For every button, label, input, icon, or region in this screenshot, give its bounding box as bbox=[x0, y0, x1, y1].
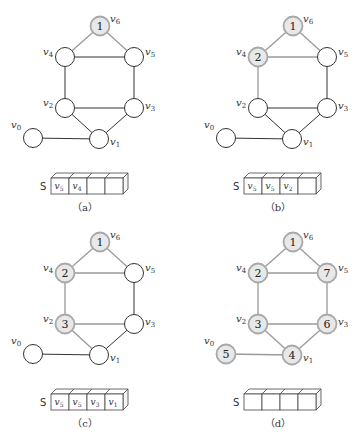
vertex-label-v1: v1 bbox=[303, 352, 313, 365]
node-v6: 1v6 bbox=[91, 229, 121, 252]
visit-order-v1: 4 bbox=[289, 349, 296, 362]
visit-order-v4: 2 bbox=[255, 51, 262, 64]
panel-a: v0v1v2v3v4v51v6Sv5v4（a） bbox=[11, 13, 155, 213]
panel-b: v0v1v2v32v4v51v6Sv5v5v2（b） bbox=[204, 13, 348, 213]
vertex-label-v2: v2 bbox=[43, 313, 53, 326]
node-v0: v0 bbox=[204, 119, 236, 148]
node-v4: 2v4 bbox=[236, 262, 268, 283]
node-circle-v0 bbox=[24, 345, 43, 364]
vertex-label-v1: v1 bbox=[110, 352, 120, 365]
node-circle-v1 bbox=[283, 130, 302, 149]
node-v6: 1v6 bbox=[284, 229, 314, 252]
node-circle-v2 bbox=[249, 99, 268, 118]
node-v1: v1 bbox=[283, 130, 314, 150]
node-v5: v5 bbox=[125, 262, 156, 283]
stack-s: Sv5v5v3v1 bbox=[40, 389, 128, 410]
visit-order-v4: 2 bbox=[255, 267, 262, 280]
node-v2: v2 bbox=[43, 97, 75, 118]
vertex-label-v5: v5 bbox=[145, 262, 155, 275]
node-circle-v5 bbox=[125, 264, 144, 283]
caption-c: （c） bbox=[72, 418, 98, 429]
vertex-label-v4: v4 bbox=[43, 46, 54, 59]
node-v0: v0 bbox=[11, 335, 43, 364]
node-v3: v3 bbox=[125, 99, 156, 118]
vertex-label-v2: v2 bbox=[236, 313, 246, 326]
stack-cell-1 bbox=[262, 394, 280, 410]
stack-cell-2 bbox=[87, 178, 105, 194]
node-v2: 3v2 bbox=[236, 313, 268, 334]
vertex-label-v6: v6 bbox=[303, 13, 314, 26]
node-circle-v3 bbox=[125, 99, 144, 118]
stack-label: S bbox=[233, 181, 239, 192]
node-v4: 2v4 bbox=[236, 46, 268, 67]
vertex-label-v4: v4 bbox=[236, 262, 247, 275]
node-v2: 3v2 bbox=[43, 313, 75, 334]
vertex-label-v4: v4 bbox=[236, 46, 247, 59]
panel-d: 5v04v13v26v32v47v51v6S（d） bbox=[204, 229, 348, 429]
vertex-label-v2: v2 bbox=[236, 97, 246, 110]
node-v5: 7v5 bbox=[318, 262, 349, 283]
vertex-label-v5: v5 bbox=[338, 262, 348, 275]
node-v2: v2 bbox=[236, 97, 268, 118]
node-v3: 6v3 bbox=[318, 315, 349, 334]
node-v4: 2v4 bbox=[43, 262, 75, 283]
node-circle-v0 bbox=[217, 129, 236, 148]
vertex-label-v3: v3 bbox=[338, 100, 348, 113]
vertex-label-v4: v4 bbox=[43, 262, 54, 275]
visit-order-v6: 1 bbox=[290, 20, 297, 33]
visit-order-v5: 7 bbox=[324, 267, 331, 280]
dfs-traversal-figure: v0v1v2v3v4v51v6Sv5v4（a）v0v1v2v32v4v51v6S… bbox=[0, 0, 364, 445]
vertex-label-v3: v3 bbox=[145, 316, 155, 329]
vertex-label-v1: v1 bbox=[110, 136, 120, 149]
vertex-label-v6: v6 bbox=[110, 13, 121, 26]
node-circle-v2 bbox=[56, 99, 75, 118]
visit-order-v0: 5 bbox=[223, 348, 230, 361]
caption-d: （d） bbox=[265, 418, 291, 429]
node-circle-v0 bbox=[24, 129, 43, 148]
stack-cell-0 bbox=[244, 394, 262, 410]
stack-cell-2 bbox=[280, 394, 298, 410]
stack-s: S bbox=[233, 389, 321, 410]
node-v6: 1v6 bbox=[91, 13, 121, 36]
caption-a: （a） bbox=[72, 202, 98, 213]
vertex-label-v0: v0 bbox=[11, 119, 21, 132]
stack-label: S bbox=[40, 181, 46, 192]
visit-order-v2: 3 bbox=[255, 318, 262, 331]
node-v1: v1 bbox=[90, 346, 121, 366]
node-v5: v5 bbox=[125, 46, 156, 67]
vertex-label-v6: v6 bbox=[303, 229, 314, 242]
node-circle-v5 bbox=[318, 48, 337, 67]
node-v1: v1 bbox=[90, 130, 121, 150]
vertex-label-v6: v6 bbox=[110, 229, 121, 242]
stack-s: Sv5v4 bbox=[40, 173, 128, 194]
vertex-label-v1: v1 bbox=[303, 136, 313, 149]
caption-b: （b） bbox=[265, 202, 291, 213]
stack-s: Sv5v5v2 bbox=[233, 173, 321, 194]
visit-order-v6: 1 bbox=[97, 236, 104, 249]
stack-cell-3 bbox=[298, 178, 316, 194]
node-circle-v5 bbox=[125, 48, 144, 67]
vertex-label-v5: v5 bbox=[145, 46, 155, 59]
node-v0: 5v0 bbox=[204, 335, 236, 364]
node-v3: v3 bbox=[125, 315, 156, 334]
node-circle-v4 bbox=[56, 48, 75, 67]
node-circle-v3 bbox=[125, 315, 144, 334]
node-v1: 4v1 bbox=[283, 346, 314, 366]
vertex-label-v3: v3 bbox=[145, 100, 155, 113]
stack-label: S bbox=[233, 397, 239, 408]
stack-cell-3 bbox=[105, 178, 123, 194]
visit-order-v2: 3 bbox=[62, 318, 69, 331]
node-circle-v3 bbox=[318, 99, 337, 118]
visit-order-v6: 1 bbox=[97, 20, 104, 33]
node-v0: v0 bbox=[11, 119, 43, 148]
visit-order-v4: 2 bbox=[62, 267, 69, 280]
visit-order-v6: 1 bbox=[290, 236, 297, 249]
vertex-label-v0: v0 bbox=[204, 119, 214, 132]
stack-cell-3 bbox=[298, 394, 316, 410]
node-v5: v5 bbox=[318, 46, 349, 67]
node-circle-v1 bbox=[90, 346, 109, 365]
vertex-label-v0: v0 bbox=[11, 335, 21, 348]
vertex-label-v2: v2 bbox=[43, 97, 53, 110]
vertex-label-v5: v5 bbox=[338, 46, 348, 59]
vertex-label-v3: v3 bbox=[338, 316, 348, 329]
